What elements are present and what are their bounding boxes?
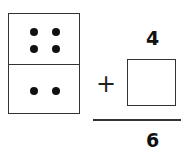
dot-icon <box>30 28 38 36</box>
domino-card <box>8 13 80 114</box>
plus-sign: + <box>96 72 116 96</box>
domino-bottom-half <box>9 65 79 114</box>
dot-icon <box>30 87 38 95</box>
domino-top-half <box>9 14 79 65</box>
addend-number: 4 <box>146 29 159 48</box>
dot-icon <box>52 45 60 53</box>
sum-line <box>93 119 181 121</box>
dot-icon <box>52 28 60 36</box>
dot-icon <box>52 87 60 95</box>
sum-number: 6 <box>146 131 159 150</box>
answer-box[interactable] <box>127 59 176 106</box>
dot-icon <box>30 45 38 53</box>
